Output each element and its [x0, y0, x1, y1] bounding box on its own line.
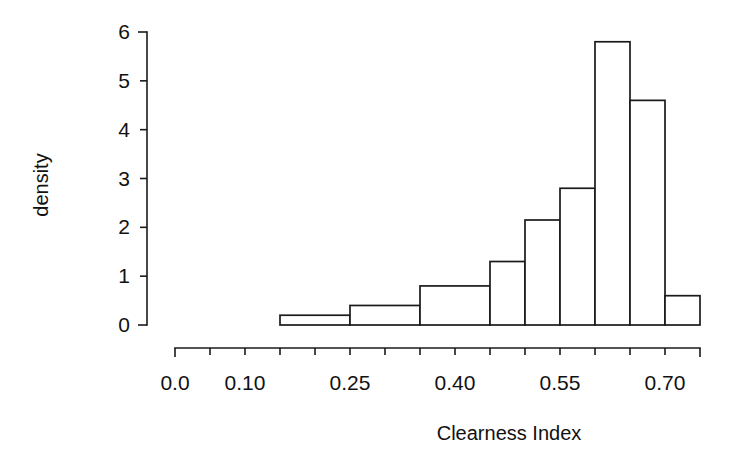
x-axis — [175, 348, 700, 357]
histogram-bar — [525, 220, 560, 325]
histogram-bar — [280, 315, 350, 325]
histogram-bar — [560, 188, 595, 325]
x-tick-label: 0.55 — [540, 371, 581, 394]
x-axis-title: Clearness Index — [437, 422, 582, 444]
chart-figure: 0123456 0.00.100.250.400.550.70 Clearnes… — [0, 0, 729, 468]
y-tick-label: 1 — [118, 264, 130, 287]
x-tick-labels: 0.00.100.250.400.550.70 — [160, 371, 685, 394]
x-tick-label: 0.70 — [645, 371, 686, 394]
x-tick-label: 0.0 — [160, 371, 189, 394]
x-tick-label: 0.10 — [225, 371, 266, 394]
histogram-bar — [490, 262, 525, 325]
y-axis-title: density — [30, 153, 52, 216]
histogram-bar — [420, 286, 490, 325]
histogram-bar — [350, 305, 420, 325]
y-tick-label: 5 — [118, 69, 130, 92]
x-tick-label: 0.25 — [330, 371, 371, 394]
y-tick-label: 0 — [118, 313, 130, 336]
bars-group — [280, 42, 700, 325]
y-tick-label: 6 — [118, 20, 130, 43]
histogram-bar — [665, 296, 700, 325]
y-axis — [138, 32, 147, 325]
histogram-bar — [630, 100, 665, 325]
y-tick-label: 4 — [118, 118, 130, 141]
y-tick-label: 3 — [118, 167, 130, 190]
y-tick-labels: 0123456 — [118, 20, 130, 336]
x-tick-label: 0.40 — [435, 371, 476, 394]
y-tick-label: 2 — [118, 215, 130, 238]
histogram-plot: 0123456 0.00.100.250.400.550.70 Clearnes… — [0, 0, 729, 468]
histogram-bar — [595, 42, 630, 325]
